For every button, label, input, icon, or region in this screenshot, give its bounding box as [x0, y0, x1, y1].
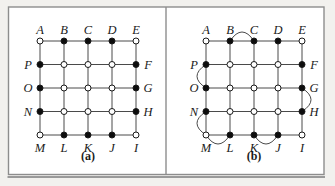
figure-container: ABCDEFGHIJKLMNOP(a)ABCDEFGHIJKLMNOP(b) [0, 0, 335, 186]
vertex-label-F: F [143, 58, 152, 72]
vertex-K [251, 132, 257, 138]
vertex-interior [61, 62, 67, 68]
vertex-label-M: M [34, 141, 46, 155]
vertex-P [203, 62, 209, 68]
vertex-L [61, 132, 67, 138]
vertex-interior [109, 85, 115, 91]
vertex-interior [251, 109, 257, 115]
vertex-label-E: E [297, 23, 306, 37]
vertex-interior [109, 62, 115, 68]
vertex-interior [227, 85, 233, 91]
vertex-I [133, 132, 139, 138]
vertex-label-I: I [299, 141, 305, 155]
vertex-C [251, 38, 257, 44]
vertex-interior [275, 109, 281, 115]
vertex-interior [275, 85, 281, 91]
vertex-F [299, 62, 305, 68]
vertex-B [61, 38, 67, 44]
vertex-label-E: E [131, 23, 140, 37]
vertex-label-N: N [23, 105, 33, 119]
vertex-label-H: H [308, 105, 319, 119]
vertex-label-M: M [200, 141, 212, 155]
vertex-H [299, 109, 305, 115]
figure-svg: ABCDEFGHIJKLMNOP(a)ABCDEFGHIJKLMNOP(b) [0, 0, 335, 186]
vertex-J [275, 132, 281, 138]
vertex-label-G: G [143, 81, 152, 95]
vertex-E [299, 38, 305, 44]
vertex-label-L: L [226, 141, 234, 155]
vertex-label-P: P [23, 58, 32, 72]
vertex-label-I: I [133, 141, 139, 155]
vertex-O [203, 85, 209, 91]
vertex-K [85, 132, 91, 138]
vertex-E [133, 38, 139, 44]
vertex-label-O: O [189, 81, 198, 95]
vertex-label-G: G [309, 81, 318, 95]
vertex-F [133, 62, 139, 68]
vertex-label-O: O [23, 81, 32, 95]
vertex-label-N: N [189, 105, 199, 119]
vertex-label-P: P [189, 58, 198, 72]
panel-caption-b: (b) [247, 149, 262, 163]
vertex-M [203, 132, 209, 138]
vertex-interior [227, 109, 233, 115]
vertex-D [109, 38, 115, 44]
panel-caption-a: (a) [81, 149, 95, 163]
vertex-P [37, 62, 43, 68]
vertex-H [133, 109, 139, 115]
vertex-label-H: H [142, 105, 153, 119]
vertex-label-F: F [309, 58, 318, 72]
vertex-label-A: A [201, 23, 210, 37]
vertex-B [227, 38, 233, 44]
vertex-J [109, 132, 115, 138]
vertex-A [203, 38, 209, 44]
vertex-label-B: B [60, 23, 68, 37]
vertex-interior [85, 85, 91, 91]
vertex-interior [85, 109, 91, 115]
vertex-G [133, 85, 139, 91]
vertex-label-A: A [35, 23, 44, 37]
vertex-N [203, 109, 209, 115]
vertex-interior [85, 62, 91, 68]
vertex-label-C: C [84, 23, 93, 37]
vertex-interior [251, 62, 257, 68]
vertex-interior [227, 62, 233, 68]
vertex-label-D: D [272, 23, 282, 37]
vertex-interior [61, 109, 67, 115]
vertex-D [275, 38, 281, 44]
vertex-C [85, 38, 91, 44]
vertex-label-D: D [106, 23, 116, 37]
vertex-interior [251, 85, 257, 91]
vertex-label-B: B [226, 23, 234, 37]
vertex-L [227, 132, 233, 138]
vertex-label-L: L [60, 141, 68, 155]
vertex-A [37, 38, 43, 44]
vertex-I [299, 132, 305, 138]
vertex-label-C: C [250, 23, 259, 37]
vertex-M [37, 132, 43, 138]
vertex-O [37, 85, 43, 91]
vertex-interior [275, 62, 281, 68]
vertex-interior [109, 109, 115, 115]
vertex-interior [61, 85, 67, 91]
vertex-N [37, 109, 43, 115]
vertex-G [299, 85, 305, 91]
